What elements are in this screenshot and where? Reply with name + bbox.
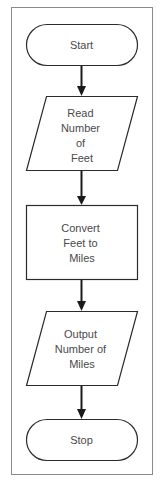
node-start-label: Start [70,39,93,51]
node-stop: Stop [27,420,138,461]
arrowhead-icon [77,409,86,419]
connector-start-to-read [77,65,86,96]
arrowhead-icon [77,86,86,96]
connector-convert-to-output [77,280,86,311]
arrowhead-icon [77,301,86,311]
node-stop-label: Stop [70,434,93,446]
node-convert: Convert Feet to Miles [27,206,138,280]
arrowhead-icon [77,196,86,205]
node-start: Start [27,25,138,66]
connector-read-to-convert [77,170,86,205]
flowchart-canvas: Start Read Number of Feet Convert Feet t… [0,0,162,486]
node-read: Read Number of Feet [27,97,138,171]
connector-output-to-stop [77,385,86,419]
node-output: Output Number of Miles [27,312,138,386]
